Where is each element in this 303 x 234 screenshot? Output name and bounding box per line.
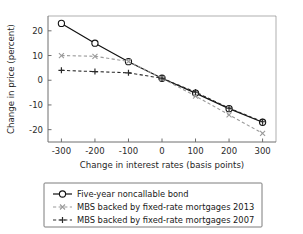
x-axis-title: Change in interest rates (basis points) [80,160,244,170]
legend-label-1: Five-year noncallable bond [77,189,189,199]
data-point [260,131,265,136]
y-axis-title: Change in price (percent) [6,24,16,134]
series-line-2 [61,56,262,134]
chart-figure: -300-200-1000100200300-20-1001020Change … [0,0,303,234]
y-tick-label: -20 [29,125,43,135]
y-tick-label: -10 [29,100,43,110]
x-tick-label: 0 [159,146,164,156]
data-point [125,70,131,76]
legend-marker [59,191,65,197]
x-tick-label: -300 [52,146,71,156]
data-point [92,40,98,46]
line-chart: -300-200-1000100200300-20-1001020Change … [0,0,303,234]
legend-label-3: MBS backed by fixed-rate mortgages 2007 [77,215,254,225]
data-point [58,67,64,73]
data-point [227,112,232,117]
y-tick-label: 0 [38,75,43,85]
data-point [58,20,64,26]
y-tick-label: 10 [32,51,43,61]
x-tick-label: 300 [254,146,270,156]
legend-label-2: MBS backed by fixed-rate mortgages 2013 [77,202,254,212]
x-tick-label: 200 [221,146,237,156]
y-tick-label: 20 [32,26,43,36]
x-tick-label: -200 [85,146,104,156]
data-point [92,69,98,75]
x-tick-label: 100 [187,146,203,156]
x-tick-label: -100 [119,146,138,156]
